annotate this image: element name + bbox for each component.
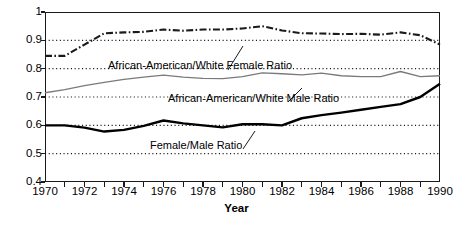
x-tick-mark: [360, 182, 361, 187]
x-tick-label: 1974: [111, 186, 137, 198]
x-tick-label: 1972: [72, 186, 98, 198]
x-tick-label: 1990: [427, 186, 453, 198]
x-tick-mark: [64, 182, 65, 187]
y-tick-label: 1: [2, 6, 42, 18]
x-tick-mark: [143, 182, 144, 187]
y-tick-mark: [41, 11, 45, 12]
x-tick-label: 1978: [190, 186, 216, 198]
y-tick-label: 0.6: [2, 120, 42, 132]
y-tick-mark: [41, 68, 45, 69]
x-tick-mark: [281, 182, 282, 187]
y-tick-mark: [41, 40, 45, 41]
x-tick-mark: [420, 182, 421, 187]
x-tick-label: 1986: [348, 186, 374, 198]
x-tick-mark: [380, 182, 381, 187]
y-tick-label: 0.9: [2, 35, 42, 47]
series-label-aa-white-female: African-American/White Female Ratio: [108, 60, 292, 71]
series-label-female-male: Female/Male Ratio: [150, 140, 242, 151]
x-tick-mark: [84, 182, 85, 187]
x-tick-mark: [222, 182, 223, 187]
series-line-1: [45, 72, 440, 93]
x-tick-label: 1980: [230, 186, 256, 198]
chart-figure: 10.90.80.70.60.50.4 19701972197419761978…: [0, 0, 473, 229]
y-axis: 10.90.80.70.60.50.4: [0, 0, 42, 229]
x-tick-label: 1984: [309, 186, 335, 198]
x-tick-mark: [104, 182, 105, 187]
x-tick-mark: [301, 182, 302, 187]
y-tick-label: 0.8: [2, 63, 42, 75]
series-line-0: [45, 26, 440, 56]
y-tick-mark: [41, 96, 45, 97]
x-tick-label: 1988: [388, 186, 414, 198]
data-series-group: [45, 26, 440, 131]
series-label-aa-white-male: African-American/White Male Ratio: [168, 93, 339, 104]
x-tick-mark: [400, 182, 401, 187]
y-tick-mark: [41, 153, 45, 154]
x-axis-title: Year: [0, 203, 473, 215]
x-tick-mark: [202, 182, 203, 187]
y-tick-mark: [41, 181, 45, 182]
series-line-2: [45, 84, 440, 132]
x-tick-label: 1976: [151, 186, 177, 198]
y-tick-label: 0.4: [2, 176, 42, 188]
x-tick-mark: [341, 182, 342, 187]
y-tick-mark: [41, 125, 45, 126]
x-tick-label: 1982: [269, 186, 295, 198]
x-tick-mark: [123, 182, 124, 187]
x-tick-mark: [262, 182, 263, 187]
x-tick-mark: [183, 182, 184, 187]
x-tick-mark: [242, 182, 243, 187]
x-tick-mark: [163, 182, 164, 187]
y-tick-label: 0.7: [2, 91, 42, 103]
x-tick-mark: [321, 182, 322, 187]
y-tick-label: 0.5: [2, 148, 42, 160]
